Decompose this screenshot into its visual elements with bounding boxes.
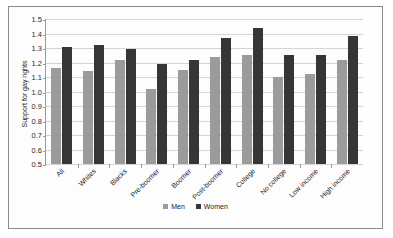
chart-legend: MenWomen xyxy=(9,203,382,210)
x-axis-tick-label: Whites xyxy=(77,167,97,187)
bar-group xyxy=(268,19,300,164)
y-axis-tick-label: 1.1 xyxy=(32,74,42,82)
bar-women xyxy=(157,64,167,164)
chart-figure: Support for gay rights 0.50.60.70.80.91.… xyxy=(8,6,383,229)
bar-group xyxy=(331,19,363,164)
bar-women xyxy=(348,36,358,164)
x-axis-tick-label: College xyxy=(234,167,256,189)
bar-men xyxy=(83,71,93,164)
x-axis-tick-label: Boomer xyxy=(170,167,192,189)
legend-label: Men xyxy=(171,203,185,210)
bar-group xyxy=(109,19,141,164)
bar-group xyxy=(205,19,237,164)
y-axis-tick-label: 1.2 xyxy=(32,60,42,68)
bar-women xyxy=(284,55,294,164)
bar-men xyxy=(178,70,188,164)
y-axis-tick-label: 0.5 xyxy=(32,161,42,169)
bar-women xyxy=(126,49,136,164)
bar-men xyxy=(210,57,220,164)
bar-women xyxy=(189,60,199,164)
bar-group xyxy=(173,19,205,164)
y-axis-tick-label: 0.6 xyxy=(32,147,42,155)
y-axis-tick-label: 1.5 xyxy=(32,16,42,24)
bar-women xyxy=(221,38,231,164)
bar-men xyxy=(337,60,347,164)
bar-women xyxy=(94,45,104,164)
bar-women xyxy=(253,28,263,164)
bar-men xyxy=(305,74,315,164)
bar-men xyxy=(146,89,156,164)
y-axis-title: Support for gay rights xyxy=(19,21,31,167)
bar-group xyxy=(141,19,173,164)
bar-men xyxy=(273,77,283,164)
bar-women xyxy=(62,47,72,164)
bar-group xyxy=(78,19,110,164)
legend-label: Women xyxy=(204,203,228,210)
bar-group xyxy=(300,19,332,164)
bar-group xyxy=(46,19,78,164)
y-axis-tick-label: 1.0 xyxy=(32,89,42,97)
x-axis-tick-label: Blacks xyxy=(109,167,129,187)
y-axis-tick-label: 0.8 xyxy=(32,118,42,126)
bar-men xyxy=(51,68,61,164)
legend-swatch xyxy=(163,204,168,209)
bar-women xyxy=(316,55,326,164)
legend-item-men: Men xyxy=(163,203,185,210)
y-axis-tick-label: 1.3 xyxy=(32,45,42,53)
y-axis-tick-label: 1.4 xyxy=(32,31,42,39)
bar-men xyxy=(115,60,125,164)
bar-men xyxy=(242,55,252,164)
x-axis-tick-label: All xyxy=(55,167,65,177)
y-axis-tick-label: 0.9 xyxy=(32,103,42,111)
plot-area: 0.50.60.70.80.91.01.11.21.31.41.5 xyxy=(45,19,363,165)
legend-item-women: Women xyxy=(196,203,228,210)
y-axis-tick-label: 0.7 xyxy=(32,132,42,140)
bar-series-container xyxy=(46,19,363,164)
legend-swatch xyxy=(196,204,201,209)
bar-group xyxy=(236,19,268,164)
